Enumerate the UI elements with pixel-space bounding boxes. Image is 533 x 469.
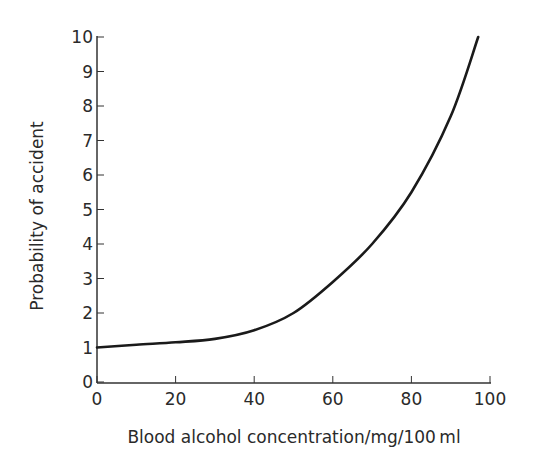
y-tick-label: 1	[82, 338, 93, 358]
y-tick-label: 5	[82, 200, 93, 220]
x-tick-label: 60	[322, 389, 344, 409]
x-axis: 020406080100	[92, 376, 507, 409]
chart: 012345678910 020406080100 Blood alcohol …	[0, 0, 533, 469]
y-axis: 012345678910	[71, 27, 104, 392]
y-tick-label: 8	[82, 96, 93, 116]
data-curve	[97, 37, 478, 348]
x-tick-label: 40	[243, 389, 265, 409]
x-tick-label: 100	[474, 389, 506, 409]
y-tick-label: 3	[82, 269, 93, 289]
x-tick-label: 20	[165, 389, 187, 409]
x-axis-title: Blood alcohol concentration/mg/100 ml	[127, 427, 460, 447]
y-axis-title: Probability of accident	[27, 121, 47, 311]
y-tick-label: 2	[82, 303, 93, 323]
x-tick-label: 80	[401, 389, 423, 409]
y-tick-label: 7	[82, 131, 93, 151]
x-tick-label: 0	[92, 389, 103, 409]
y-tick-label: 6	[82, 165, 93, 185]
y-tick-label: 10	[71, 27, 93, 47]
y-tick-label: 9	[82, 62, 93, 82]
y-tick-label: 4	[82, 234, 93, 254]
